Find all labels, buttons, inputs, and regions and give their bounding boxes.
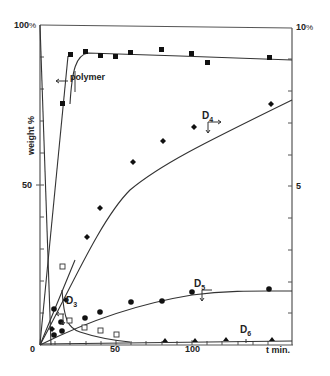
chart: 100% 10% 50 5 weight % 0 50 100 t min. p… (0, 0, 330, 376)
x-tick-100: 100 (185, 344, 200, 354)
d4-down-arrow (206, 122, 210, 133)
top-axis (40, 25, 292, 28)
d5-down-arrow (200, 290, 204, 301)
x-axis-title: t min. (266, 345, 290, 355)
x-tick-0: 0 (30, 344, 35, 354)
d6-label: D6 (240, 324, 251, 337)
polymer-label: polymer (70, 72, 106, 82)
y2-mid-label: 5 (296, 181, 301, 191)
x-tick-50: 50 (110, 344, 120, 354)
d5-curve (40, 291, 292, 345)
d5-label: D5 (194, 278, 205, 291)
y-top-label: 100% (14, 20, 36, 30)
d4-label: D4 (202, 110, 213, 123)
d4-markers (49, 101, 274, 332)
y2-top-label: 10% (296, 22, 313, 32)
d3-label: D3 (66, 295, 77, 308)
y-axis-title: weight % (26, 116, 36, 156)
y-mid-label: 50 (22, 180, 32, 190)
annotation-arrows (56, 71, 246, 343)
d4-curve (40, 100, 292, 345)
